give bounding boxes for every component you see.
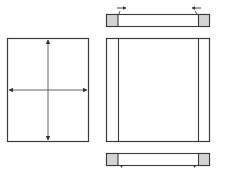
right-panel [107, 8, 210, 168]
bottom-bar-right-cap [199, 154, 210, 166]
square-frame [107, 39, 210, 142]
square-frame-outline [107, 39, 210, 142]
top-bar [107, 8, 210, 27]
layout-diagram [0, 0, 226, 181]
top-bar-left-cap [107, 15, 119, 27]
top-bar-right-cap [199, 15, 210, 27]
top-bar-body [107, 15, 210, 27]
inward-left-arrow-tick [195, 11, 197, 14]
bottom-bar [107, 154, 210, 169]
bottom-right-tick-icon [193, 165, 196, 168]
bottom-bar-left-cap [107, 154, 119, 166]
inward-right-arrow-tick [119, 11, 120, 14]
bottom-left-tick-icon [120, 165, 123, 168]
left-panel [8, 39, 89, 142]
bottom-bar-body [107, 154, 210, 166]
